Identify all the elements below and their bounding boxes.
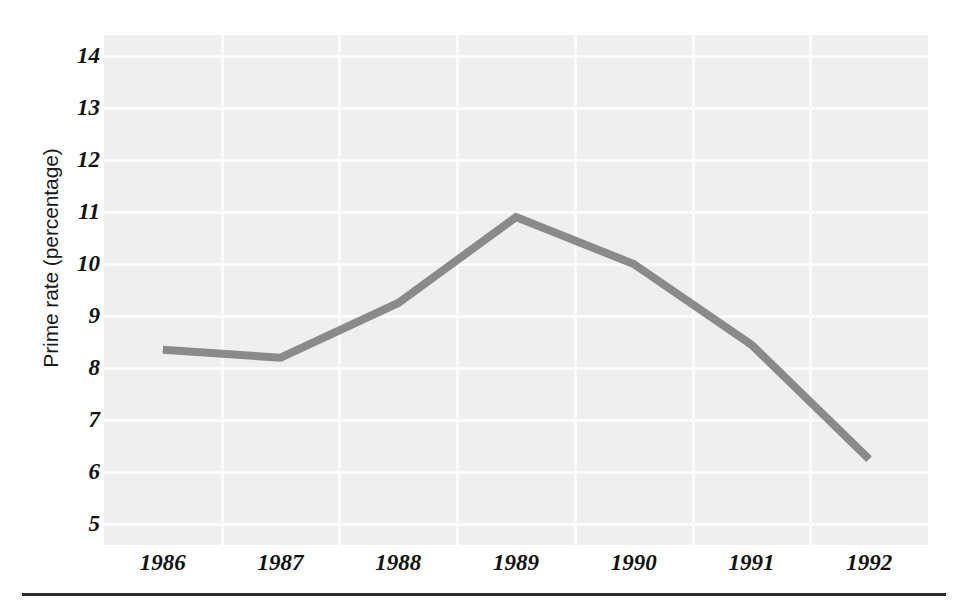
y-tick-label: 7 [56,408,100,432]
x-axis-tick-labels: 1986198719881989199019911992 [0,549,968,581]
plot-area [104,35,928,545]
y-tick-label: 6 [56,460,100,484]
y-tick-label: 8 [56,356,100,380]
x-tick-label: 1992 [809,549,929,577]
y-tick-label: 9 [56,304,100,328]
x-tick-label: 1990 [574,549,694,577]
bottom-rule [22,593,946,596]
y-tick-label: 12 [56,148,100,172]
x-tick-label: 1986 [103,549,223,577]
x-tick-label: 1989 [456,549,576,577]
y-axis-tick-labels: 141312111098765 [56,0,100,616]
series-line-prime-rate [104,35,928,545]
y-tick-label: 14 [56,44,100,68]
x-tick-label: 1987 [221,549,341,577]
y-tick-label: 10 [56,252,100,276]
x-tick-label: 1991 [691,549,811,577]
y-tick-label: 5 [56,512,100,536]
y-tick-label: 11 [56,200,100,224]
y-tick-label: 13 [56,96,100,120]
x-tick-label: 1988 [338,549,458,577]
chart-figure: Prime rate (percentage) 141312111098765 … [0,0,968,616]
